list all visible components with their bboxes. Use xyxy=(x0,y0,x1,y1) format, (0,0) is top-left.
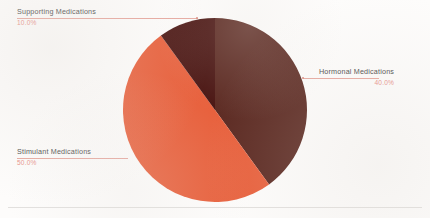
pie-chart: Supporting Medications 10.0% Stimulant M… xyxy=(0,0,430,218)
slice-value-hormonal-medications: 40.0% xyxy=(319,78,394,87)
leader-anchor-supporting-medications xyxy=(196,17,198,19)
slice-value-stimulant-medications: 50.0% xyxy=(17,158,91,167)
leader-anchor-hormonal-medications xyxy=(302,77,304,79)
slice-callout-supporting-medications: Supporting Medications 10.0% xyxy=(17,7,96,27)
pie-chart-canvas xyxy=(0,0,430,218)
slice-value-supporting-medications: 10.0% xyxy=(17,18,96,27)
pie-slices xyxy=(123,18,307,202)
slice-label-supporting-medications: Supporting Medications xyxy=(17,7,96,16)
slice-callout-hormonal-medications: Hormonal Medications 40.0% xyxy=(319,67,394,87)
baseline-rule xyxy=(8,207,422,208)
slice-label-hormonal-medications: Hormonal Medications xyxy=(319,67,394,76)
slice-callout-stimulant-medications: Stimulant Medications 50.0% xyxy=(17,147,91,167)
slice-label-stimulant-medications: Stimulant Medications xyxy=(17,147,91,156)
